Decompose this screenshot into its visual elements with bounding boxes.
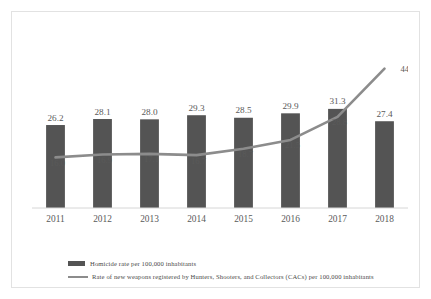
- bar-2016: [281, 113, 300, 208]
- combo-chart: 26.228.128.029.328.529.931.327.416.016.9…: [32, 22, 408, 237]
- legend-item-cac-weapons-rate: Rate of new weapons registered by Hunter…: [12, 270, 421, 283]
- line-value-label-2015: 18.7: [238, 149, 254, 159]
- line-value-label-2016: 21.5: [285, 140, 300, 150]
- bar-value-label-2011: 26.2: [47, 113, 63, 123]
- line-value-label-2017: 28.8: [332, 117, 347, 127]
- legend-item-homicide-rate: Homicide rate per 100,000 inhabitants: [12, 257, 421, 270]
- x-tick-label-2017: 2017: [328, 214, 347, 224]
- bar-value-label-2016: 29.9: [282, 101, 298, 111]
- bar-value-label-2012: 28.1: [94, 107, 110, 117]
- line-value-label-2018: 44.0: [401, 64, 409, 74]
- x-tick-label-2015: 2015: [234, 214, 253, 224]
- bar-2015: [234, 118, 253, 208]
- bar-value-label-2015: 28.5: [235, 105, 251, 115]
- bar-swatch-icon: [68, 261, 85, 266]
- x-tick-label-2013: 2013: [140, 214, 159, 224]
- chart-figure: 26.228.128.029.328.529.931.327.416.016.9…: [11, 11, 420, 288]
- bar-2018: [375, 121, 394, 208]
- bar-value-label-2018: 27.4: [376, 109, 392, 119]
- line-value-label-2014: 16.7: [191, 156, 207, 166]
- x-tick-label-2014: 2014: [187, 214, 206, 224]
- x-tick-label-2011: 2011: [46, 214, 65, 224]
- line-swatch-icon: [68, 276, 88, 278]
- line-value-label-2011: 16.0: [50, 158, 65, 168]
- bar-value-label-2017: 31.3: [329, 96, 345, 106]
- x-tick-label-2016: 2016: [281, 214, 300, 224]
- line-value-label-2012: 16.9: [97, 155, 112, 165]
- bar-value-label-2014: 29.3: [188, 103, 204, 113]
- legend-label-cac-weapons-rate: Rate of new weapons registered by Hunter…: [92, 273, 374, 280]
- chart-legend: Homicide rate per 100,000 inhabitants Ra…: [12, 257, 421, 283]
- line-value-label-2013: 17.1: [144, 154, 159, 164]
- x-tick-label-2018: 2018: [375, 214, 394, 224]
- legend-label-homicide-rate: Homicide rate per 100,000 inhabitants: [90, 260, 196, 267]
- bar-value-label-2013: 28.0: [141, 107, 157, 117]
- x-tick-label-2012: 2012: [93, 214, 112, 224]
- plot-area: 26.228.128.029.328.529.931.327.416.016.9…: [32, 22, 408, 237]
